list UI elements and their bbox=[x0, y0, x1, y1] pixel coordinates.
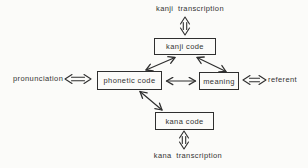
arrow-kanji-code-phonetic-code bbox=[146, 58, 175, 71]
box-kana-code: kana code bbox=[155, 112, 214, 130]
diagram-canvas: kanji transcription kanji code pronuncia… bbox=[0, 0, 308, 168]
arrow-kanji-code-meaning bbox=[197, 58, 226, 72]
label-referent: referent bbox=[268, 76, 304, 84]
label-pronunciation: pronunciation bbox=[13, 75, 67, 83]
arrow-meaning-referent bbox=[243, 76, 266, 85]
arrow-pronunciation-phonetic-code bbox=[65, 75, 91, 84]
arrow-phonetic-code-kana-code bbox=[140, 92, 162, 111]
box-phonetic-code: phonetic code bbox=[97, 71, 162, 90]
box-kanji-code: kanji code bbox=[154, 38, 216, 55]
box-meaning: meaning bbox=[199, 72, 239, 90]
arrow-kanji-transcription-kanji-code bbox=[181, 17, 190, 35]
arrow-kana-code-kana-transcription bbox=[180, 131, 189, 149]
label-kana-transcription: kana transcription bbox=[138, 152, 238, 160]
label-kanji-transcription: kanji transcription bbox=[140, 5, 240, 13]
